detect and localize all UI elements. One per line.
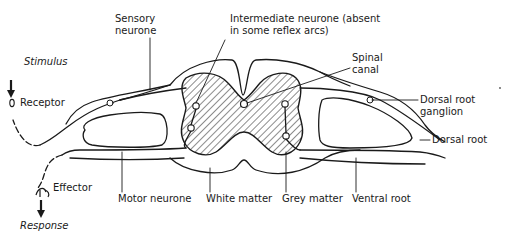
- label-grey-matter: Grey matter: [282, 193, 343, 205]
- motor-cell-right-upper: [282, 101, 288, 107]
- right-dorsal-root-line: [300, 88, 440, 140]
- left-dorsal-root-lower: [120, 88, 186, 100]
- label-spinal-canal-line2: canal: [352, 64, 379, 76]
- receptor-oval-icon: [10, 99, 14, 106]
- label-ventral-root: Ventral root: [352, 193, 411, 205]
- label-intermediate-neurone-line2: in some reflex arcs): [230, 25, 329, 37]
- label-dorsal-root-ganglion-line1: Dorsal root: [420, 94, 475, 106]
- label-sensory-neurone-line2: neurone: [115, 25, 156, 37]
- left-ganglion-outline: [66, 85, 170, 124]
- label-sensory-neurone-line1: Sensory: [115, 13, 155, 25]
- left-ventral-root-upper: [62, 148, 186, 155]
- intermediate-cell-left-upper: [193, 103, 199, 109]
- label-motor-neurone: Motor neurone: [118, 193, 191, 205]
- left-ganglion-cell: [107, 100, 113, 106]
- reflex-arc-diagram: Sensory neurone Intermediate neurone (ab…: [0, 0, 509, 239]
- label-dorsal-root-ganglion-line2: ganglion: [420, 106, 463, 118]
- intermediate-cell-left-lower: [188, 125, 194, 131]
- left-ventral-root-lower: [70, 158, 184, 160]
- sensory-neurone-dashed: [13, 120, 40, 146]
- label-white-matter: White matter: [206, 193, 272, 205]
- label-stimulus: Stimulus: [24, 56, 67, 68]
- label-response: Response: [20, 220, 68, 232]
- label-effector: Effector: [53, 182, 92, 194]
- right-ventral-root-upper: [300, 150, 445, 158]
- response-arrow-icon: [37, 200, 45, 218]
- spinal-canal-circle: [241, 101, 248, 108]
- right-inner-loop: [319, 98, 412, 148]
- motor-cell-right-lower: [283, 133, 289, 139]
- grey-matter-shape: [181, 73, 302, 155]
- label-receptor: Receptor: [20, 97, 65, 109]
- stimulus-arrow-icon: [7, 80, 15, 98]
- label-dorsal-root: Dorsal root: [432, 134, 487, 146]
- effector-muscle-icon: [36, 188, 49, 197]
- label-spinal-canal-line1: Spinal: [352, 52, 383, 64]
- left-inner-loop: [83, 113, 167, 148]
- right-ventral-root-lower: [300, 158, 425, 164]
- label-intermediate-neurone-line1: Intermediate neurone (absent: [230, 13, 380, 25]
